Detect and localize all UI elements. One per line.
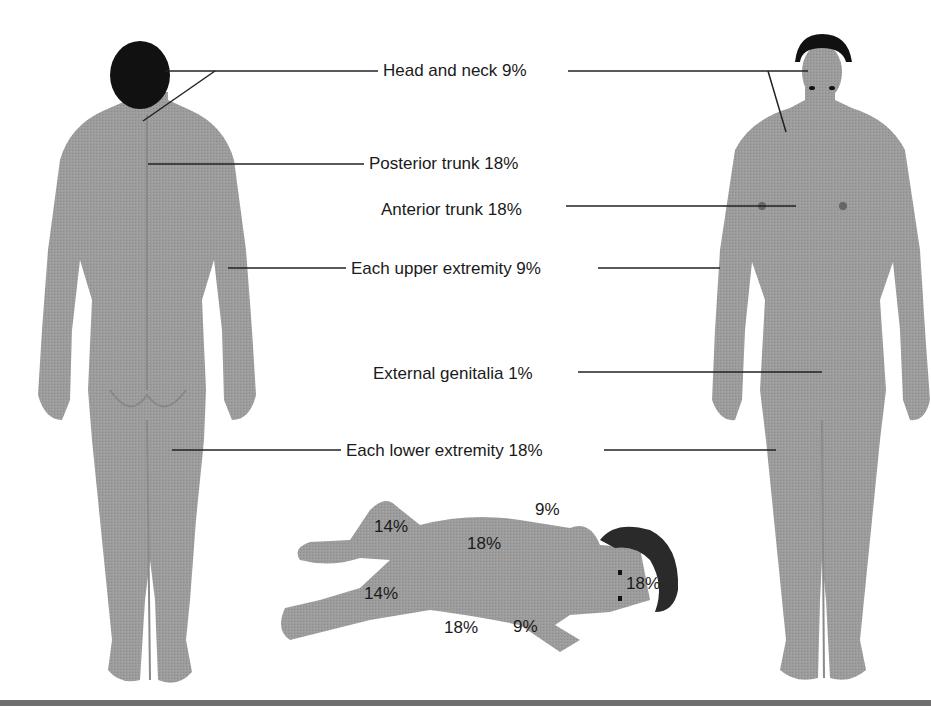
infant-figure <box>281 501 678 652</box>
infant-pct-trunk-back: 18% <box>444 618 478 638</box>
infant-pct-arm-top: 9% <box>535 500 560 520</box>
label-lower-extremity: Each lower extremity 18% <box>346 441 543 461</box>
label-head-neck: Head and neck 9% <box>383 61 527 81</box>
label-anterior-trunk: Anterior trunk 18% <box>381 200 522 220</box>
label-upper-extremity: Each upper extremity 9% <box>351 259 541 279</box>
front-view-figure <box>712 34 930 680</box>
back-view-figure <box>38 41 256 683</box>
label-posterior-trunk: Posterior trunk 18% <box>369 154 518 174</box>
infant-pct-head: 18% <box>626 574 660 594</box>
bottom-rule <box>0 700 931 706</box>
infant-pct-leg-top: 14% <box>374 517 408 537</box>
infant-pct-leg-bottom: 14% <box>364 584 398 604</box>
infant-pct-trunk: 18% <box>467 534 501 554</box>
rule-of-nines-figure: Head and neck 9% Posterior trunk 18% Ant… <box>0 0 931 726</box>
infant-pct-arm-bottom: 9% <box>513 617 538 637</box>
label-genitalia: External genitalia 1% <box>373 364 533 384</box>
